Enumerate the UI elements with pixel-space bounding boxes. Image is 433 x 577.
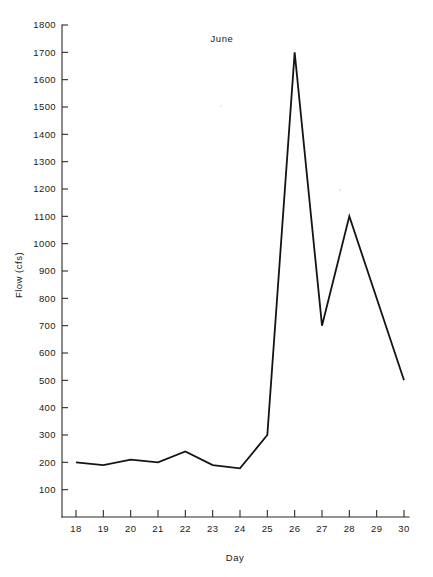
x-axis-tick-label: 28 bbox=[344, 523, 355, 534]
y-axis-tick-label: 600 bbox=[39, 347, 56, 358]
x-axis-tick-label: 19 bbox=[98, 523, 109, 534]
y-axis-tick-label: 1000 bbox=[33, 238, 56, 249]
y-axis-tick-label: 400 bbox=[39, 402, 56, 413]
y-axis-tick-label: 1600 bbox=[33, 74, 56, 85]
x-axis-tick-label: 22 bbox=[180, 523, 191, 534]
y-axis-tick-label: 1700 bbox=[33, 47, 56, 58]
y-axis-tick-label: 1100 bbox=[34, 211, 56, 222]
y-axis-tick-label: 200 bbox=[39, 457, 56, 468]
x-axis-tick-label: 23 bbox=[207, 523, 218, 534]
x-axis-tick-label: 29 bbox=[371, 523, 382, 534]
y-axis-tick-label: 1500 bbox=[33, 101, 56, 112]
y-axis-tick-label: 1400 bbox=[33, 129, 56, 140]
y-axis-tick-label: 1800 bbox=[33, 19, 56, 30]
x-axis-tick-label: 21 bbox=[152, 523, 163, 534]
x-axis-tick-label: 24 bbox=[234, 523, 245, 534]
y-axis-tick-label: 800 bbox=[39, 293, 56, 304]
y-axis-tick-label: 900 bbox=[39, 265, 56, 276]
y-axis-title: Flow (cfs) bbox=[13, 252, 24, 298]
chart-figure: 1002003004005006007008009001000110012001… bbox=[0, 0, 433, 577]
x-axis-tick-label: 27 bbox=[316, 523, 327, 534]
y-axis-tick-label: 1200 bbox=[33, 183, 56, 194]
x-axis-tick-label: 20 bbox=[125, 523, 136, 534]
y-axis-tick-label: 300 bbox=[39, 429, 56, 440]
y-axis-tick-label: 100 bbox=[39, 484, 56, 495]
chart-title: June bbox=[210, 33, 233, 44]
x-axis-tick-label: 26 bbox=[289, 523, 300, 534]
x-axis-tick-label: 25 bbox=[262, 523, 273, 534]
x-axis-title: Day bbox=[226, 552, 244, 563]
y-axis-tick-label: 1300 bbox=[33, 156, 56, 167]
x-axis-tick-label: 18 bbox=[70, 523, 81, 534]
y-axis-tick-label: 700 bbox=[39, 320, 56, 331]
chart-background bbox=[0, 0, 433, 577]
x-axis-tick-label: 30 bbox=[398, 523, 409, 534]
y-axis-tick-label: 500 bbox=[39, 375, 56, 386]
line-chart: 1002003004005006007008009001000110012001… bbox=[0, 0, 433, 577]
